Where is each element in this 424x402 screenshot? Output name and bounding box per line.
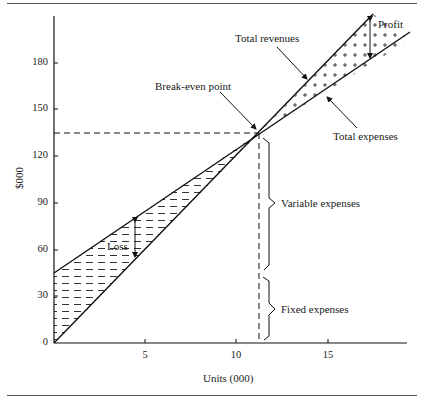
break-even-label: Break-even point (155, 80, 231, 92)
profit-label: Profit (378, 18, 403, 30)
y-tick-0: 0 (18, 336, 48, 347)
fixed-expenses-brace (263, 277, 275, 340)
loss-label: Loss (107, 240, 128, 252)
x-tick-15: 15 (318, 349, 338, 360)
break-even-chart (0, 0, 424, 402)
y-tick-30: 30 (18, 289, 48, 300)
x-axis-label: Units (000) (203, 372, 253, 384)
variable-expenses-label: Variable expenses (281, 197, 360, 209)
total-expenses-line (54, 32, 410, 273)
total-expenses-pointer (327, 97, 357, 128)
total-revenues-label: Total revenues (235, 32, 299, 44)
y-axis-label: $000 (13, 167, 25, 189)
total-expenses-label: Total expenses (333, 130, 398, 142)
y-tick-180: 180 (18, 56, 48, 67)
y-tick-60: 60 (18, 243, 48, 254)
total-revenues-pointer (277, 47, 307, 79)
x-tick-5: 5 (135, 349, 155, 360)
y-tick-90: 90 (18, 196, 48, 207)
variable-expenses-brace (263, 138, 275, 270)
x-tick-10: 10 (226, 349, 246, 360)
y-tick-150: 150 (18, 102, 48, 113)
break-even-pointer (220, 92, 256, 129)
fixed-expenses-label: Fixed expenses (281, 303, 349, 315)
total-revenues-line (54, 14, 373, 343)
y-tick-120: 120 (18, 149, 48, 160)
